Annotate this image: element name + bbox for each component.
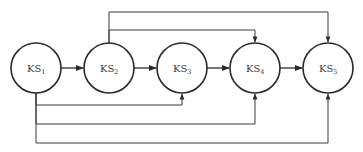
node-ks1: KS1 [11,43,61,93]
edge-ks2-to-ks5 [109,12,328,43]
node-ks3: KS3 [157,43,207,93]
edge-ks1-to-ks3 [36,93,182,105]
knowledge-source-diagram: KS1KS2KS3KS4KS5 [0,0,363,152]
node-ks5: KS5 [303,43,353,93]
node-ks4: KS4 [230,43,280,93]
edge-ks2-to-ks4 [109,30,255,43]
edge-ks1-to-ks4 [36,93,255,124]
node-ks2: KS2 [84,43,134,93]
